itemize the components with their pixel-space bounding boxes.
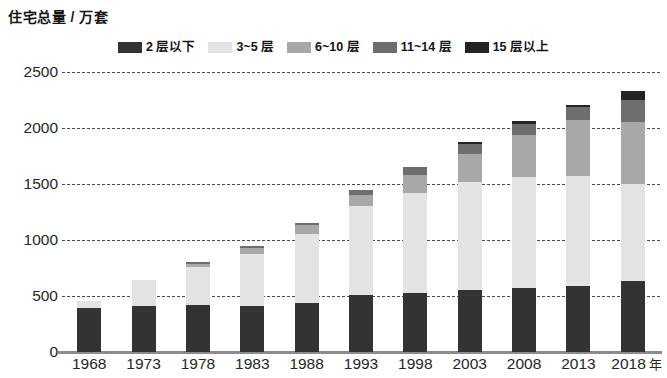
bar-stack[interactable] bbox=[458, 142, 482, 352]
bar-stack[interactable] bbox=[566, 105, 590, 353]
bar-stack[interactable] bbox=[403, 167, 427, 352]
bar-segment bbox=[186, 305, 210, 352]
y-axis-tick-label: 1000 bbox=[2, 232, 58, 248]
bar-segment bbox=[566, 107, 590, 120]
x-axis-tick-label: 1998 bbox=[398, 356, 432, 372]
legend-swatch-icon bbox=[118, 42, 142, 53]
bar-segment bbox=[186, 267, 210, 305]
x-axis-tick-label: 2013 bbox=[561, 356, 595, 372]
bar-stack[interactable] bbox=[621, 91, 645, 352]
legend-item[interactable]: 15 层以上 bbox=[465, 41, 549, 54]
bars-container bbox=[62, 72, 660, 352]
x-axis-tick-label: 1983 bbox=[235, 356, 269, 372]
bar-segment bbox=[621, 281, 645, 352]
bar-segment bbox=[295, 303, 319, 352]
bar-segment bbox=[512, 124, 536, 135]
x-axis-tick-label: 1988 bbox=[289, 356, 323, 372]
bar-stack[interactable] bbox=[512, 121, 536, 352]
bar-segment bbox=[458, 144, 482, 154]
bar-segment bbox=[132, 306, 156, 352]
x-axis-tick-label: 1973 bbox=[126, 356, 160, 372]
y-axis-tick-label: 2000 bbox=[2, 120, 58, 136]
bar-segment bbox=[621, 100, 645, 122]
bar-segment bbox=[458, 154, 482, 182]
x-axis-tick-label: 2018 年 bbox=[611, 356, 662, 372]
bar-stack[interactable] bbox=[77, 301, 101, 353]
bar-segment bbox=[566, 120, 590, 175]
bar-segment bbox=[403, 175, 427, 193]
bar-stack[interactable] bbox=[295, 223, 319, 352]
y-axis-tick-label: 500 bbox=[2, 288, 58, 304]
bar-stack[interactable] bbox=[132, 280, 156, 352]
x-axis-tick-label: 1978 bbox=[181, 356, 215, 372]
bar-stack[interactable] bbox=[186, 262, 210, 352]
bar-segment bbox=[512, 288, 536, 352]
bar-stack[interactable] bbox=[349, 190, 373, 352]
y-axis-tick-label: 1500 bbox=[2, 176, 58, 192]
legend-item[interactable]: 6~10 层 bbox=[287, 41, 360, 54]
bar-segment bbox=[403, 293, 427, 352]
legend-item[interactable]: 3~5 层 bbox=[208, 41, 274, 54]
bar-segment bbox=[349, 195, 373, 206]
legend-label: 6~10 层 bbox=[315, 41, 360, 54]
y-axis-tick-label: 0 bbox=[2, 344, 58, 360]
legend-label: 2 层以下 bbox=[146, 41, 195, 54]
bar-segment bbox=[512, 177, 536, 288]
bar-segment bbox=[240, 254, 264, 306]
bar-segment bbox=[621, 122, 645, 184]
bar-segment bbox=[403, 193, 427, 293]
y-axis-tick-label: 2500 bbox=[2, 64, 58, 80]
x-axis-labels: 1968197319781983198819931998200320082013… bbox=[62, 356, 660, 378]
legend-label: 11~14 层 bbox=[401, 41, 452, 54]
bar-segment bbox=[403, 167, 427, 175]
chart-title: 住宅总量 / 万套 bbox=[8, 6, 108, 26]
x-axis-tick-label: 2003 bbox=[452, 356, 486, 372]
legend-label: 3~5 层 bbox=[236, 41, 274, 54]
bar-segment bbox=[458, 290, 482, 352]
bar-segment bbox=[349, 206, 373, 294]
bar-segment bbox=[621, 184, 645, 281]
legend-swatch-icon bbox=[373, 42, 397, 53]
legend-item[interactable]: 11~14 层 bbox=[373, 41, 452, 54]
bar-segment bbox=[512, 135, 536, 177]
bar-segment bbox=[295, 225, 319, 233]
legend-swatch-icon bbox=[287, 42, 311, 53]
bar-segment bbox=[566, 176, 590, 286]
bar-segment bbox=[621, 91, 645, 100]
chart-legend: 2 层以下3~5 层6~10 层11~14 层15 层以上 bbox=[0, 41, 667, 54]
bar-stack[interactable] bbox=[240, 246, 264, 352]
bar-segment bbox=[566, 286, 590, 352]
bar-segment bbox=[132, 280, 156, 306]
x-axis-tick-label: 1993 bbox=[344, 356, 378, 372]
bar-segment bbox=[458, 182, 482, 290]
bar-segment bbox=[77, 301, 101, 309]
x-axis-tick-year: 2018 bbox=[611, 355, 645, 372]
legend-label: 15 层以上 bbox=[493, 41, 549, 54]
legend-swatch-icon bbox=[465, 42, 489, 53]
legend-swatch-icon bbox=[208, 42, 232, 53]
y-axis-labels: 05001000150020002500 bbox=[0, 72, 58, 353]
bar-segment bbox=[349, 295, 373, 352]
x-axis-tick-label: 2008 bbox=[507, 356, 541, 372]
x-axis-unit-label: 年 bbox=[646, 357, 663, 372]
bar-segment bbox=[77, 308, 101, 352]
legend-item[interactable]: 2 层以下 bbox=[118, 41, 195, 54]
bar-segment bbox=[295, 234, 319, 303]
x-axis-tick-label: 1968 bbox=[72, 356, 106, 372]
bar-segment bbox=[240, 306, 264, 352]
